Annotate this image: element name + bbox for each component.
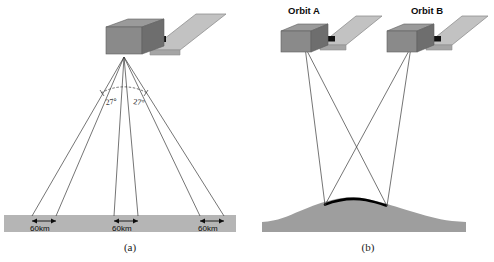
- orbit-a-label: Orbit A: [288, 5, 320, 16]
- solar-panel-a-edge: [150, 50, 180, 55]
- satellite-orbit-a-front: [281, 31, 311, 52]
- satellite-geometry-figure: 27° 27° 60km: [0, 0, 494, 262]
- left-angle-label: 27°: [105, 97, 117, 107]
- satellite-orbit-b-front: [387, 31, 417, 52]
- panel-b-caption: (b): [362, 241, 375, 254]
- swath-nadir-label: 60km: [112, 224, 132, 233]
- panel-a-caption: (a): [124, 241, 137, 254]
- swath-left-label: 60km: [30, 224, 50, 233]
- orbit-b-label: Orbit B: [411, 5, 443, 16]
- right-angle-label: 27°: [133, 97, 145, 107]
- swath-right-label: 60km: [198, 224, 218, 233]
- satellite-body-a-front: [106, 27, 142, 54]
